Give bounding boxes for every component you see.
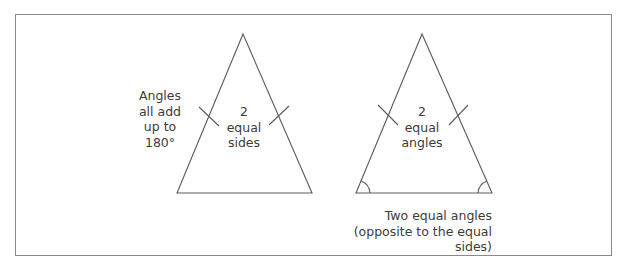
angle-arc-left [361, 181, 370, 193]
equal-angles-caption: Two equal angles (opposite to the equal … [330, 208, 492, 255]
angle-arc-right [478, 181, 487, 193]
tick-mark-right-side [449, 105, 468, 125]
equal-sides-label: 2 equal sides [218, 104, 270, 151]
equal-angles-label: 2 equal angles [396, 104, 448, 151]
angles-sum-note: Angles all add up to 180° [130, 88, 190, 150]
tick-mark-left-side [378, 105, 398, 125]
tick-mark-right-side [269, 106, 289, 125]
tick-mark-left-side [199, 107, 219, 126]
triangles-canvas [0, 0, 622, 267]
